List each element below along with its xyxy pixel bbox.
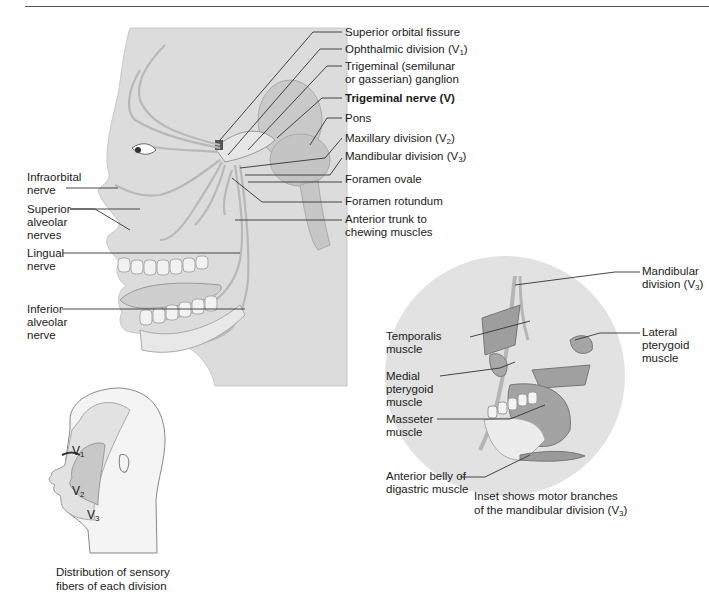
label-lingual-nerve: Lingualnerve [27, 247, 64, 273]
label-superior-alveolar-nerves: Superioralveolarnerves [27, 203, 70, 242]
label-trigeminal-ganglion: Trigeminal (semilunaror gasserian) gangl… [345, 60, 459, 86]
distribution-caption: Distribution of sensoryfibers of each di… [56, 565, 170, 593]
inset-label-digastric-muscle: Anterior belly ofdigastric muscle [386, 470, 468, 496]
inset-label-lateral-pterygoid-muscle: Lateralpterygoidmuscle [642, 326, 689, 365]
label-inferior-alveolar-nerve: Inferioralveolarnerve [27, 303, 67, 342]
zone-label-v2: V2 [72, 485, 84, 498]
label-foramen-ovale: Foramen ovale [345, 173, 422, 186]
zone-label-v1: V1 [72, 445, 84, 458]
inset-label-temporalis-muscle: Temporalismuscle [386, 330, 442, 356]
zone-label-v3: V3 [87, 509, 99, 522]
inset-label-masseter-muscle: Massetermuscle [386, 413, 433, 439]
label-ophthalmic-division: Ophthalmic division (V1) [345, 43, 468, 56]
inset-label-mandibular-division: Mandibulardivision (V3) [642, 265, 703, 291]
label-anterior-trunk: Anterior trunk tochewing muscles [345, 213, 433, 239]
label-trigeminal-nerve: Trigeminal nerve (V) [345, 92, 455, 105]
inset-caption: Inset shows motor branchesof the mandibu… [474, 489, 627, 517]
label-foramen-rotundum: Foramen rotundum [345, 195, 443, 208]
label-superior-orbital-fissure: Superior orbital fissure [345, 26, 460, 39]
label-mandibular-division: Mandibular division (V3) [345, 150, 466, 163]
label-maxillary-division: Maxillary division (V2) [345, 132, 455, 145]
inset-label-medial-pterygoid-muscle: Medialpterygoidmuscle [386, 370, 433, 409]
label-pons: Pons [345, 112, 371, 125]
label-infraorbital-nerve: Infraorbitalnerve [27, 171, 81, 197]
